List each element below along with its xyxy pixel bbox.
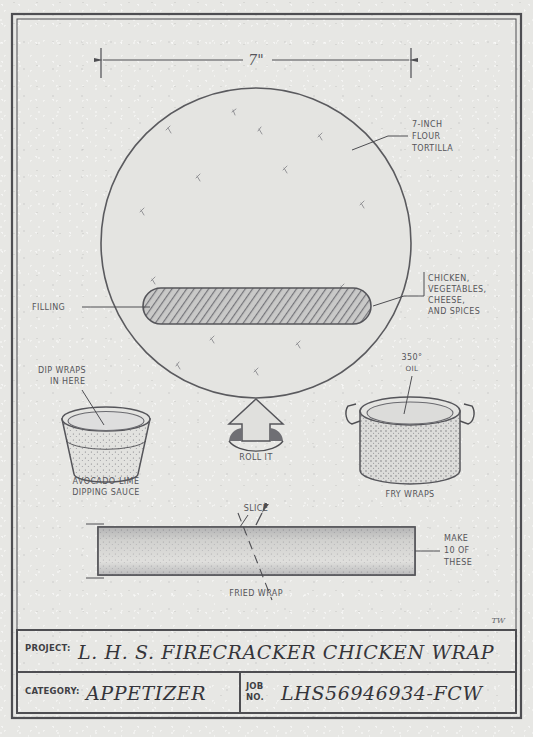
- project-label: PROJECT:: [25, 643, 71, 653]
- caption-fried-wrap: FRIED WRAP: [229, 589, 283, 598]
- callout-tortilla-line-3: TORTILLA: [411, 144, 453, 153]
- caption-sauce-line-1: AVOCADO-LIME: [73, 477, 140, 486]
- caption-sauce-line-2: DIPPING SAUCE: [72, 488, 140, 497]
- drawing-sheet: 7" 7-INCH FLOUR TORTILLA: [0, 0, 533, 737]
- roll-it-arrow: ROLL IT: [229, 399, 283, 462]
- sauce-cup: [62, 407, 150, 482]
- caption-fry-wraps: FRY WRAPS: [385, 490, 434, 499]
- roll-it-label: ROLL IT: [239, 453, 272, 462]
- callout-dip-line-2: IN HERE: [50, 377, 85, 386]
- category-label: CATEGORY:: [25, 686, 80, 696]
- dimension-tortilla-width: 7": [101, 48, 411, 78]
- callout-make-line-3: THESE: [443, 558, 472, 567]
- filling-shape: [143, 288, 371, 324]
- dimension-label: 7": [248, 52, 263, 68]
- callout-filling-label: FILLING: [32, 303, 65, 312]
- job-value: LHS56946934-FCW: [280, 682, 483, 704]
- callout-make-line-1: MAKE: [444, 534, 468, 543]
- callout-filling-line-1: CHICKEN,: [428, 274, 470, 283]
- callout-filling-line-4: AND SPICES: [428, 307, 480, 316]
- callout-oil-line-1: 350°: [402, 353, 423, 362]
- callout-tortilla-line-2: FLOUR: [412, 132, 441, 141]
- callout-filling-line-3: CHEESE,: [428, 296, 465, 305]
- fried-wrap-bar: [86, 524, 415, 578]
- designer-initials: TW: [491, 616, 505, 625]
- project-value: L. H. S. FIRECRACKER CHICKEN WRAP: [77, 641, 495, 663]
- title-block: PROJECT: L. H. S. FIRECRACKER CHICKEN WR…: [17, 630, 516, 713]
- callout-oil-line-2: OIL: [406, 364, 419, 373]
- fry-pot: [346, 397, 474, 484]
- category-value: APPETIZER: [84, 682, 206, 704]
- tortilla-circle: [101, 88, 411, 398]
- caption-sauce: AVOCADO-LIME DIPPING SAUCE: [72, 477, 140, 497]
- callout-tortilla-line-1: 7-INCH: [412, 120, 442, 129]
- callout-dip-line-1: DIP WRAPS: [38, 366, 86, 375]
- job-label-2: NO.: [246, 692, 264, 702]
- callout-make-ten: MAKE 10 OF THESE: [415, 534, 472, 567]
- callout-filling-line-2: VEGETABLES,: [428, 285, 487, 294]
- callout-make-line-2: 10 OF: [444, 546, 470, 555]
- job-label-1: JOB: [245, 681, 263, 691]
- callout-slice-label: SLICE: [244, 504, 269, 513]
